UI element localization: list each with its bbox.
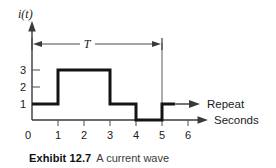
x-axis-label: Seconds [214, 114, 259, 126]
right-arrow-icon [198, 116, 209, 124]
y-tick-label-2: 2 [20, 81, 26, 93]
y-axis-ticks [32, 70, 40, 104]
y-axis-label: i(t) [18, 7, 33, 21]
current-wave-chart: 3 2 1 0 1 2 3 4 5 6 i(t) Seconds T [0, 0, 276, 150]
period-label: T [84, 37, 92, 51]
x-axis-ticks [58, 120, 188, 126]
x-tick-label-1: 1 [55, 129, 61, 141]
x-tick-label-5: 5 [159, 129, 165, 141]
repeat-annotation: Repeat [174, 98, 245, 110]
y-axis-tick-labels: 3 2 1 [20, 64, 26, 110]
repeat-label: Repeat [207, 98, 245, 110]
caption-exhibit-number: Exhibit 12.7 [29, 152, 91, 164]
left-arrow-icon [33, 41, 42, 47]
right-arrow-icon [152, 41, 161, 47]
period-dimension: T [32, 37, 162, 51]
x-tick-label-4: 4 [133, 129, 139, 141]
x-tick-label-0: 0 [25, 129, 31, 141]
x-tick-label-3: 3 [107, 129, 113, 141]
x-tick-label-6: 6 [185, 129, 191, 141]
right-arrow-icon [189, 100, 200, 108]
y-tick-label-1: 1 [20, 98, 26, 110]
x-tick-label-2: 2 [81, 129, 87, 141]
figure-caption: Exhibit 12.7A current wave [0, 148, 276, 168]
y-tick-label-3: 3 [20, 64, 26, 76]
waveform-trace [32, 70, 175, 120]
caption-title: A current wave [96, 152, 169, 164]
x-axis-tick-labels: 0 1 2 3 4 5 6 [25, 129, 191, 141]
figure-exhibit-12-7: 3 2 1 0 1 2 3 4 5 6 i(t) Seconds T [0, 0, 276, 168]
up-arrow-icon [28, 21, 36, 32]
